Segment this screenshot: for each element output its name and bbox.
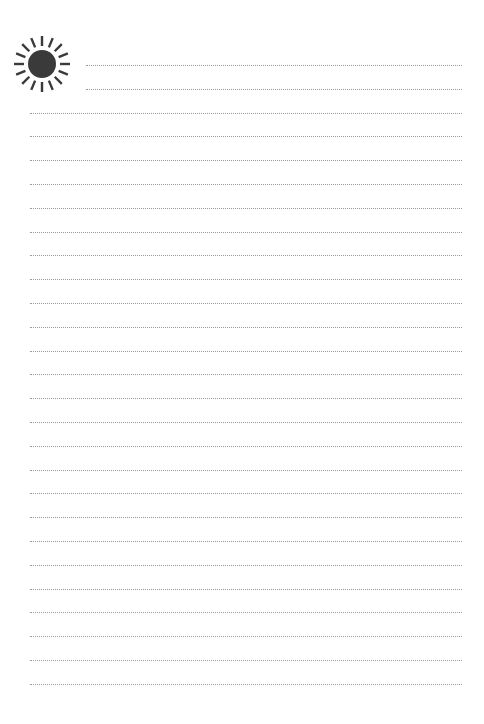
writing-line — [30, 208, 462, 209]
writing-line — [30, 517, 462, 518]
writing-line — [30, 351, 462, 352]
writing-line — [30, 493, 462, 494]
writing-line — [30, 398, 462, 399]
writing-line — [30, 684, 462, 685]
writing-line — [30, 160, 462, 161]
writing-line — [30, 113, 462, 114]
writing-line — [86, 65, 462, 66]
writing-line — [86, 89, 462, 90]
writing-line — [30, 184, 462, 185]
writing-line — [30, 232, 462, 233]
writing-line — [30, 565, 462, 566]
writing-line — [30, 446, 462, 447]
writing-line — [30, 660, 462, 661]
writing-line — [30, 136, 462, 137]
writing-line — [30, 636, 462, 637]
writing-line — [30, 541, 462, 542]
writing-line — [30, 303, 462, 304]
writing-line — [30, 255, 462, 256]
writing-line — [30, 374, 462, 375]
writing-line — [30, 422, 462, 423]
writing-line — [30, 470, 462, 471]
sun-icon — [12, 34, 72, 94]
writing-line — [30, 612, 462, 613]
writing-line — [30, 327, 462, 328]
writing-line — [30, 589, 462, 590]
writing-line — [30, 279, 462, 280]
